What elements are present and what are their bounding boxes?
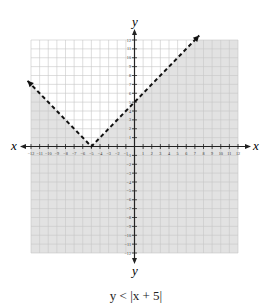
svg-text:3: 3 xyxy=(129,117,131,122)
svg-text:−11: −11 xyxy=(36,151,42,156)
svg-text:12: 12 xyxy=(236,151,240,156)
svg-text:−7: −7 xyxy=(72,151,76,156)
svg-text:2: 2 xyxy=(151,151,153,156)
svg-text:6: 6 xyxy=(129,91,131,96)
svg-text:5: 5 xyxy=(177,151,179,156)
svg-text:−5: −5 xyxy=(127,188,131,193)
svg-text:5: 5 xyxy=(129,100,131,105)
inequality-caption: y < |x + 5| xyxy=(0,288,272,304)
svg-text:6: 6 xyxy=(185,151,187,156)
svg-text:11: 11 xyxy=(227,151,231,156)
svg-text:−9: −9 xyxy=(55,151,59,156)
svg-text:−11: −11 xyxy=(125,242,131,247)
svg-text:7: 7 xyxy=(129,82,131,87)
svg-text:−6: −6 xyxy=(81,151,85,156)
svg-text:10: 10 xyxy=(127,55,131,60)
x-axis-label-right: x xyxy=(252,138,259,153)
svg-text:10: 10 xyxy=(219,151,223,156)
svg-text:−9: −9 xyxy=(127,224,131,229)
svg-text:−3: −3 xyxy=(127,171,131,176)
svg-text:8: 8 xyxy=(202,151,204,156)
svg-text:9: 9 xyxy=(129,64,131,69)
svg-text:−3: −3 xyxy=(106,151,110,156)
x-axis-label-left: x xyxy=(10,138,17,153)
svg-text:8: 8 xyxy=(129,73,131,78)
svg-text:2: 2 xyxy=(129,126,131,131)
svg-text:9: 9 xyxy=(211,151,213,156)
coordinate-plane: −12−11−10−9−8−7−6−5−4−3−2−11234567891011… xyxy=(0,0,272,285)
svg-text:−8: −8 xyxy=(127,215,131,220)
svg-text:−2: −2 xyxy=(127,162,131,167)
svg-text:3: 3 xyxy=(159,151,161,156)
svg-text:7: 7 xyxy=(194,151,196,156)
svg-text:−5: −5 xyxy=(89,151,93,156)
svg-text:−12: −12 xyxy=(28,151,35,156)
y-axis-label-top: y xyxy=(130,14,138,29)
svg-text:−12: −12 xyxy=(124,251,131,256)
svg-text:−7: −7 xyxy=(127,206,131,211)
y-axis-label-bottom: y xyxy=(130,263,138,278)
svg-text:−6: −6 xyxy=(127,197,131,202)
svg-text:1: 1 xyxy=(142,151,144,156)
svg-text:−2: −2 xyxy=(115,151,119,156)
svg-text:11: 11 xyxy=(127,46,131,51)
svg-text:−8: −8 xyxy=(63,151,67,156)
svg-text:−10: −10 xyxy=(45,151,52,156)
svg-text:1: 1 xyxy=(129,135,131,140)
svg-text:12: 12 xyxy=(127,38,131,43)
svg-text:−1: −1 xyxy=(127,153,131,158)
svg-text:−10: −10 xyxy=(124,233,131,238)
